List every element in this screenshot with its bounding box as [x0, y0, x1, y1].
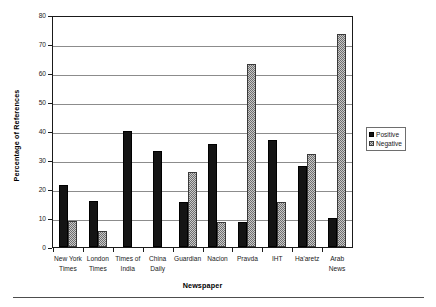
- x-axis-title: Newspaper: [52, 281, 353, 290]
- chart-legend: PositiveNegative: [366, 127, 406, 151]
- bar-group: [173, 17, 203, 247]
- x-tick-cell: [53, 248, 83, 253]
- bar-positive: [153, 151, 162, 247]
- y-tick-label: 40: [39, 127, 46, 136]
- x-axis-ticks: [53, 248, 352, 253]
- x-tick-cell: [143, 248, 173, 253]
- bar-group: [322, 17, 352, 247]
- x-tick-label-line: IHT: [263, 254, 291, 264]
- y-tick-label: 0: [42, 243, 46, 252]
- bar-negative: [68, 221, 77, 247]
- bar-positive: [208, 144, 217, 247]
- bar-negative: [247, 64, 256, 247]
- x-tick-label: Nacion: [203, 254, 233, 273]
- bar-positive: [238, 222, 247, 247]
- x-tick-label-line: London: [84, 254, 112, 264]
- bar-group: [292, 17, 322, 247]
- y-axis-ticks: 80706050403020100: [0, 16, 52, 248]
- x-tick-mark: [232, 248, 233, 252]
- y-tick-mark: [48, 248, 52, 249]
- x-tick-label-line: Guardian: [174, 254, 202, 264]
- x-tick-label: Ha'aretz: [292, 254, 322, 273]
- x-tick-cell: [262, 248, 292, 253]
- bar-group: [53, 17, 83, 247]
- x-tick-label: LondonTimes: [83, 254, 113, 273]
- y-tick-label: 10: [39, 214, 46, 223]
- bar-positive: [268, 140, 277, 247]
- x-tick-label: New YorkTimes: [53, 254, 83, 273]
- x-tick-cell: [232, 248, 262, 253]
- bar-positive: [123, 131, 132, 247]
- x-tick-label: Guardian: [173, 254, 203, 273]
- legend-item: Positive: [369, 130, 402, 139]
- x-tick-cell: [173, 248, 203, 253]
- bar-group: [262, 17, 292, 247]
- bar-group: [232, 17, 262, 247]
- y-tick-label: 20: [39, 185, 46, 194]
- x-tick-label-line: Times: [54, 264, 82, 274]
- bar-negative: [277, 202, 286, 247]
- bar-positive: [298, 166, 307, 247]
- x-tick-label: ArabNews: [322, 254, 352, 273]
- legend-label: Positive: [376, 130, 399, 139]
- x-tick-label-line: China: [144, 254, 172, 264]
- bar-negative: [188, 172, 197, 247]
- x-tick-mark: [262, 248, 263, 252]
- y-tick-label: 30: [39, 156, 46, 165]
- x-tick-label-line: Nacion: [204, 254, 232, 264]
- x-tick-label: Pravda: [232, 254, 262, 273]
- bar-negative: [217, 222, 226, 247]
- x-tick-cell: [113, 248, 143, 253]
- x-tick-mark: [203, 248, 204, 252]
- footer-divider: [13, 297, 424, 298]
- x-tick-label: IHT: [262, 254, 292, 273]
- bar-positive: [59, 185, 68, 247]
- bar-group: [83, 17, 113, 247]
- bar-positive: [89, 201, 98, 247]
- x-tick-cell: [322, 248, 352, 253]
- x-tick-label-line: Pravda: [233, 254, 261, 264]
- bars-layer: [53, 17, 352, 247]
- y-tick-label: 80: [39, 11, 46, 20]
- legend-item: Negative: [369, 139, 402, 148]
- x-tick-mark: [113, 248, 114, 252]
- y-tick-label: 70: [39, 40, 46, 49]
- x-tick-label: Times ofIndia: [113, 254, 143, 273]
- bar-group: [203, 17, 233, 247]
- solid-black-square-icon: [369, 132, 374, 137]
- y-tick-label: 60: [39, 69, 46, 78]
- bar-positive: [179, 202, 188, 247]
- bar-positive: [328, 218, 337, 247]
- x-tick-mark: [83, 248, 84, 252]
- checkered-gray-square-icon: [369, 141, 374, 146]
- x-tick-label-line: Times: [84, 264, 112, 274]
- bar-chart-figure: Percentage of References 807060504030201…: [0, 0, 436, 307]
- x-tick-mark: [292, 248, 293, 252]
- y-tick-label: 50: [39, 98, 46, 107]
- x-tick-label-line: New York: [54, 254, 82, 264]
- x-tick-label-line: Times of: [114, 254, 142, 264]
- bar-group: [143, 17, 173, 247]
- x-tick-cell: [203, 248, 233, 253]
- x-tick-cell: [83, 248, 113, 253]
- x-tick-mark: [143, 248, 144, 252]
- x-tick-cell: [292, 248, 322, 253]
- bar-negative: [98, 231, 107, 247]
- x-tick-mark: [53, 248, 54, 252]
- bar-negative: [307, 154, 316, 247]
- x-tick-mark: [322, 248, 323, 252]
- x-tick-label-line: India: [114, 264, 142, 274]
- legend-label: Negative: [376, 139, 402, 148]
- x-tick-mark: [173, 248, 174, 252]
- x-tick-label-line: Arab: [323, 254, 351, 264]
- x-tick-label-line: Ha'aretz: [293, 254, 321, 264]
- x-tick-label-line: News: [323, 264, 351, 274]
- x-tick-label-line: Daily: [144, 264, 172, 274]
- x-tick-label: ChinaDaily: [143, 254, 173, 273]
- bar-group: [113, 17, 143, 247]
- x-axis-tick-labels: New YorkTimesLondonTimesTimes ofIndiaChi…: [53, 254, 352, 273]
- bar-negative: [337, 34, 346, 247]
